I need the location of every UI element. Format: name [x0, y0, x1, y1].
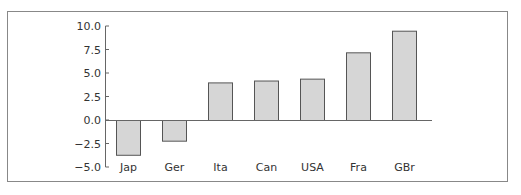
x-tick-label: USA — [301, 161, 324, 174]
x-tick-label: Jap — [119, 161, 137, 174]
y-tick-label: 7.5 — [84, 44, 102, 57]
bar-fra — [347, 53, 371, 121]
y-tick-label: 2.5 — [84, 91, 102, 104]
bar-usa — [301, 79, 325, 120]
y-tick-label: −5.0 — [74, 161, 101, 174]
x-tick-label: Ita — [213, 161, 227, 174]
x-tick-label: GBr — [394, 161, 415, 174]
y-tick-label: 10.0 — [77, 20, 102, 33]
x-tick-label: Fra — [350, 161, 367, 174]
bar-can — [255, 81, 279, 120]
x-tick-label: Can — [256, 161, 277, 174]
bar-ita — [209, 83, 233, 121]
y-tick-label: −2.5 — [74, 138, 101, 151]
bar-jap — [117, 121, 141, 156]
x-tick-label: Ger — [165, 161, 185, 174]
bar-gbr — [393, 31, 417, 120]
bar-ger — [163, 121, 187, 142]
y-tick-label: 0.0 — [84, 114, 102, 127]
bar-chart: 10.07.55.02.50.0−2.5−5.0JapGerItaCanUSAF… — [0, 0, 521, 195]
plot-area: 10.07.55.02.50.0−2.5−5.0JapGerItaCanUSAF… — [74, 20, 432, 174]
y-tick-label: 5.0 — [84, 67, 102, 80]
